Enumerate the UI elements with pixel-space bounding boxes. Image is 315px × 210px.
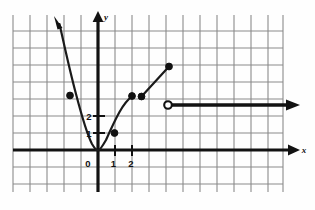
x-axis-arrowhead: [288, 145, 300, 156]
x-axis-label: x: [301, 145, 307, 155]
y-axis: [93, 11, 104, 192]
origin-label: 0: [85, 158, 90, 169]
ray-arrowhead: [286, 100, 300, 111]
y-axis-arrowhead: [93, 11, 104, 22]
x-tick-label-1: 1: [111, 158, 117, 169]
closed-point-left-branch: [67, 92, 74, 99]
grid-horizontal-lines: [13, 31, 283, 184]
x-axis: [13, 145, 300, 156]
y-tick-label-2: 2: [86, 111, 91, 122]
closed-point-segment-end: [166, 63, 173, 70]
coordinate-graph: 0 1 2 1 2 y x: [0, 0, 315, 210]
y-axis-label: y: [103, 12, 109, 22]
y-tick-label-1: 1: [86, 128, 92, 139]
axis-text-labels: 0 1 2 1 2 y x: [85, 12, 306, 169]
parabola-curve: [54, 16, 132, 150]
closed-point-at-x1: [111, 130, 118, 137]
figure-canvas: 0 1 2 1 2 y x: [0, 0, 315, 210]
x-tick-label-2: 2: [128, 158, 133, 169]
closed-point-parabola-end: [129, 93, 136, 100]
horizontal-ray: [172, 100, 300, 111]
parabola-arrowhead: [54, 16, 63, 30]
point-markers: [67, 63, 173, 136]
closed-point-segment-start: [138, 93, 145, 100]
open-point-ray-start: [164, 101, 172, 109]
